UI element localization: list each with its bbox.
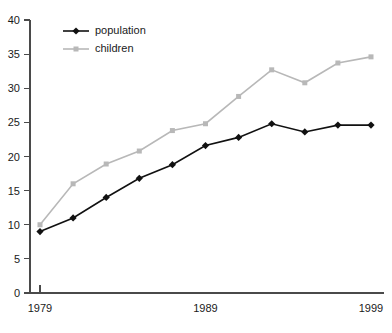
legend-label-population: population bbox=[95, 24, 146, 36]
data-point-marker bbox=[74, 47, 79, 52]
data-point-marker bbox=[104, 162, 109, 167]
line-chart: 0510152025303540 197919891999 population… bbox=[0, 0, 392, 333]
data-point-marker bbox=[367, 122, 374, 129]
x-tick-label: 1989 bbox=[193, 302, 217, 314]
x-tick-label: 1979 bbox=[28, 302, 52, 314]
y-tick-label: 30 bbox=[8, 82, 20, 94]
data-point-marker bbox=[38, 222, 43, 227]
data-point-marker bbox=[72, 27, 79, 34]
data-point-marker bbox=[103, 194, 110, 201]
legend-label-children: children bbox=[95, 42, 134, 54]
y-tick-label: 10 bbox=[8, 219, 20, 231]
chart-legend: populationchildren bbox=[63, 24, 146, 54]
axis-lines bbox=[30, 20, 384, 293]
x-axis-ticks: 197919891999 bbox=[28, 285, 383, 314]
data-point-marker bbox=[335, 60, 340, 65]
series-layer bbox=[36, 54, 374, 235]
data-point-marker bbox=[203, 121, 208, 126]
chart-canvas: 0510152025303540 197919891999 population… bbox=[0, 0, 392, 333]
y-tick-label: 20 bbox=[8, 151, 20, 163]
y-tick-label: 25 bbox=[8, 116, 20, 128]
data-point-marker bbox=[169, 161, 176, 168]
data-point-marker bbox=[236, 94, 241, 99]
legend-item-population[interactable]: population bbox=[63, 24, 146, 36]
data-point-marker bbox=[202, 142, 209, 149]
y-axis-ticks: 0510152025303540 bbox=[8, 14, 30, 299]
series-children bbox=[38, 54, 374, 227]
series-line-population bbox=[40, 124, 371, 232]
data-point-marker bbox=[136, 175, 143, 182]
series-population bbox=[36, 120, 374, 235]
data-point-marker bbox=[70, 214, 77, 221]
data-point-marker bbox=[235, 134, 242, 141]
y-tick-label: 15 bbox=[8, 185, 20, 197]
data-point-marker bbox=[137, 149, 142, 154]
data-point-marker bbox=[268, 120, 275, 127]
series-line-children bbox=[40, 57, 371, 225]
data-point-marker bbox=[170, 128, 175, 133]
y-tick-label: 5 bbox=[14, 253, 20, 265]
y-tick-label: 35 bbox=[8, 48, 20, 60]
data-point-marker bbox=[369, 54, 374, 59]
data-point-marker bbox=[301, 128, 308, 135]
data-point-marker bbox=[334, 122, 341, 129]
data-point-marker bbox=[71, 181, 76, 186]
y-tick-label: 0 bbox=[14, 287, 20, 299]
data-point-marker bbox=[269, 67, 274, 72]
legend-item-children[interactable]: children bbox=[63, 42, 134, 54]
data-point-marker bbox=[302, 80, 307, 85]
x-tick-label: 1999 bbox=[359, 302, 383, 314]
data-point-marker bbox=[36, 228, 43, 235]
y-tick-label: 40 bbox=[8, 14, 20, 26]
